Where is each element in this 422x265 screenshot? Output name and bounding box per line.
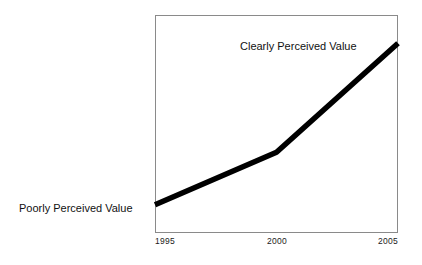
x-tick-label-1995: 1995: [155, 236, 175, 246]
line-series-svg: [0, 0, 422, 265]
perceived-value-line: [155, 43, 398, 204]
annotation-poorly-perceived-value: Poorly Perceived Value: [19, 202, 133, 214]
x-tick-label-2005: 2005: [338, 236, 398, 246]
annotation-clearly-perceived-value: Clearly Perceived Value: [240, 40, 357, 52]
x-tick-label-2000: 2000: [247, 236, 307, 246]
chart-figure: 1995 2000 2005 Poorly Perceived Value Cl…: [0, 0, 422, 265]
